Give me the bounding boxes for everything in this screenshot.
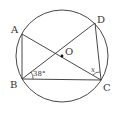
angle-label-38: 38°	[33, 70, 45, 78]
label-d: D	[97, 14, 105, 25]
angle-label-x: x	[91, 66, 95, 74]
segment-cd	[95, 23, 101, 80]
label-c: C	[103, 82, 111, 93]
geometry-diagram: A B C D O 38° x	[0, 0, 116, 113]
label-o: O	[65, 46, 73, 57]
segment-bc	[22, 79, 101, 80]
label-b: B	[10, 79, 17, 90]
label-a: A	[10, 24, 19, 35]
center-point-o	[61, 55, 64, 58]
